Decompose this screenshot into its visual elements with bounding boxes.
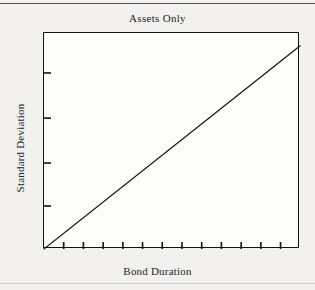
chart-title: Assets Only — [0, 12, 315, 24]
x-axis-tick-group — [64, 242, 281, 249]
top-page-rule — [0, 3, 315, 4]
bottom-page-rule — [0, 283, 315, 284]
plot-frame — [43, 32, 299, 248]
x-axis-title: Bond Duration — [0, 265, 315, 277]
y-axis-tick-group — [44, 73, 51, 206]
data-series-line — [44, 46, 300, 249]
y-axis-title: Standard Deviation — [14, 40, 30, 256]
chart-figure: Assets Only Standard Deviation Bond Dura… — [0, 0, 315, 290]
plot-svg — [44, 33, 300, 249]
data-series-group — [44, 46, 300, 249]
